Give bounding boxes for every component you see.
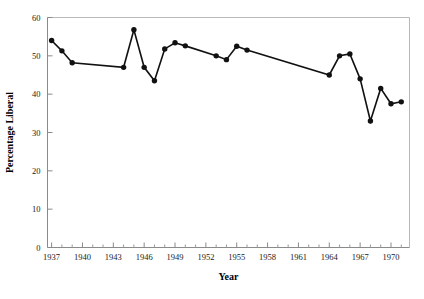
series-markers-percentage-liberal	[49, 27, 404, 124]
x-axis-tick-labels: 1937194019431946194919521955195819611964…	[43, 252, 399, 262]
x-axis-ticks	[52, 243, 391, 248]
x-axis-tick-label: 1970	[382, 252, 399, 262]
x-axis-title: Year	[219, 271, 240, 282]
data-point	[327, 72, 332, 77]
plot-frame	[48, 18, 410, 248]
x-axis-tick-label: 1961	[290, 252, 307, 262]
data-point	[59, 48, 64, 53]
data-point	[224, 57, 229, 62]
x-axis-tick-label: 1964	[321, 252, 339, 262]
y-axis-tick-label: 60	[32, 13, 41, 23]
y-axis-tick-label: 0	[36, 243, 40, 253]
x-axis-tick-label: 1937	[43, 252, 60, 262]
y-axis-tick-labels: 0102030405060	[32, 13, 41, 253]
x-axis-tick-label: 1940	[74, 252, 91, 262]
data-point	[69, 60, 74, 65]
data-point	[399, 99, 404, 104]
x-axis-tick-label: 1967	[352, 252, 369, 262]
y-axis-tick-label: 40	[32, 89, 41, 99]
x-axis-tick-label: 1952	[197, 252, 214, 262]
data-point	[378, 86, 383, 91]
y-axis-tick-label: 30	[32, 128, 41, 138]
data-point	[183, 43, 188, 48]
data-point	[131, 27, 136, 32]
x-axis-tick-label: 1949	[167, 252, 184, 262]
data-point	[152, 78, 157, 83]
line-chart: 1937194019431946194919521955195819611964…	[0, 0, 424, 299]
x-axis-tick-label: 1946	[136, 252, 153, 262]
data-point	[244, 47, 249, 52]
data-series-group	[49, 27, 404, 124]
data-point	[162, 46, 167, 51]
data-point	[121, 65, 126, 70]
y-axis-title: Percentage Liberal	[4, 92, 15, 173]
series-line-percentage-liberal	[52, 30, 402, 121]
x-axis-tick-label: 1955	[228, 252, 245, 262]
data-point	[347, 51, 352, 56]
y-axis-tick-label: 10	[32, 204, 41, 214]
data-point	[388, 101, 393, 106]
chart-canvas: 1937194019431946194919521955195819611964…	[0, 0, 424, 299]
y-axis-ticks	[48, 18, 53, 248]
data-point	[172, 40, 177, 45]
data-point	[213, 53, 218, 58]
data-point	[234, 44, 239, 49]
data-point	[49, 38, 54, 43]
data-point	[368, 118, 373, 123]
data-point	[141, 65, 146, 70]
x-axis-tick-label: 1958	[259, 252, 276, 262]
y-axis-tick-label: 20	[32, 166, 41, 176]
x-axis-tick-label: 1943	[105, 252, 122, 262]
data-point	[357, 76, 362, 81]
y-axis-tick-label: 50	[32, 51, 41, 61]
data-point	[337, 53, 342, 58]
